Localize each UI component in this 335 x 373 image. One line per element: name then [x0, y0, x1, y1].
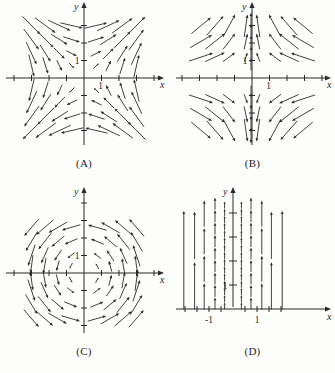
x-axis-label: x — [159, 79, 165, 90]
vector-shaft — [48, 20, 67, 29]
vector-head — [260, 283, 263, 286]
axis-arrowhead — [249, 2, 254, 8]
vector-head — [240, 295, 242, 297]
vector-head — [224, 209, 226, 211]
vector-shaft — [130, 124, 145, 139]
y-axis-label: y — [222, 186, 228, 197]
vector-head — [62, 228, 66, 231]
vector-head — [57, 282, 60, 286]
y-tick-label-1: 1 — [75, 56, 80, 66]
vector-shaft — [88, 317, 103, 321]
vector-shaft — [192, 20, 209, 34]
vector-shaft — [295, 108, 314, 119]
vector-shaft — [257, 107, 260, 119]
vector-shaft — [207, 19, 221, 35]
axis-arrowhead — [81, 2, 86, 8]
vector-head — [250, 297, 253, 300]
panel-c-plot: xy1 — [0, 185, 168, 343]
vector-shaft — [57, 97, 65, 105]
vector-head — [33, 297, 36, 301]
vector-shaft — [107, 238, 117, 246]
vector-shaft — [43, 272, 45, 284]
vector-shaft — [67, 51, 74, 55]
vector-head — [182, 211, 185, 214]
vector-shaft — [106, 100, 114, 108]
vector-shaft — [244, 107, 247, 119]
vector-shaft — [91, 226, 106, 230]
vector-head — [209, 101, 213, 104]
vector-head — [224, 202, 226, 204]
vector-head — [270, 262, 273, 265]
vector-head — [256, 119, 259, 123]
vector-shaft — [38, 297, 48, 310]
vector-head — [250, 285, 253, 288]
vector-shaft — [71, 88, 74, 91]
vector-shaft — [104, 224, 119, 233]
vector-shaft — [58, 85, 62, 92]
y-axis-label: y — [241, 1, 247, 12]
vector-shaft — [133, 95, 142, 114]
vector-head — [64, 117, 68, 120]
vector-head — [246, 14, 249, 18]
vector-shaft — [94, 290, 99, 294]
vector-shaft — [257, 18, 260, 37]
vector-head — [224, 223, 226, 225]
vector-shaft — [54, 48, 62, 56]
vector-shaft — [110, 264, 112, 271]
vector-shaft — [65, 225, 80, 229]
vector-shaft — [223, 18, 233, 37]
vector-shaft — [40, 234, 50, 247]
vector-head — [209, 53, 213, 56]
vector-head — [260, 201, 263, 204]
vector-head — [250, 272, 253, 275]
vector-head — [245, 100, 247, 103]
vector-head — [224, 230, 226, 232]
vector-shaft — [106, 64, 110, 71]
vector-head — [291, 101, 295, 104]
vector-shaft — [37, 31, 51, 45]
vector-head — [250, 235, 253, 238]
vector-head — [245, 119, 248, 123]
vector-shaft — [44, 258, 46, 270]
vector-shaft — [94, 101, 101, 105]
vector-shaft — [57, 261, 59, 268]
vector-shaft — [94, 65, 97, 68]
vector-head — [203, 201, 206, 204]
vector-shaft — [123, 261, 125, 273]
vector-head — [28, 98, 31, 102]
vector-shaft — [101, 127, 120, 136]
vector-shaft — [223, 36, 233, 49]
vector-head — [256, 34, 259, 38]
vector-shaft — [120, 61, 124, 74]
vector-shaft — [294, 54, 314, 61]
vector-shaft — [117, 299, 127, 312]
vector-shaft — [67, 288, 72, 292]
vector-shaft — [64, 37, 77, 41]
vector-shaft — [85, 24, 104, 28]
vector-head — [240, 223, 242, 225]
vector-shaft — [283, 19, 297, 35]
vector-shaft — [43, 58, 47, 71]
vector-shaft — [70, 263, 72, 266]
vector-head — [224, 295, 226, 297]
vector-shaft — [91, 303, 100, 307]
vector-head — [224, 245, 226, 247]
vector-shaft — [120, 286, 126, 299]
vector-shaft — [24, 29, 37, 46]
vector-shaft — [271, 36, 281, 49]
vector-shaft — [119, 236, 129, 249]
vector-shaft — [258, 95, 260, 101]
vector-head — [32, 73, 35, 77]
vector-head — [138, 280, 141, 284]
vector-head — [240, 209, 242, 211]
vector-shaft — [121, 85, 125, 98]
x-tick-label-1: 1 — [266, 81, 271, 91]
vector-head — [88, 114, 92, 117]
vector-shaft — [109, 278, 111, 285]
vector-head — [214, 297, 217, 300]
vector-shaft — [244, 37, 247, 49]
panel-d-caption: (D) — [170, 345, 335, 357]
vector-head — [109, 275, 112, 279]
vector-shaft — [271, 107, 281, 120]
axis-arrowhead — [230, 187, 235, 193]
